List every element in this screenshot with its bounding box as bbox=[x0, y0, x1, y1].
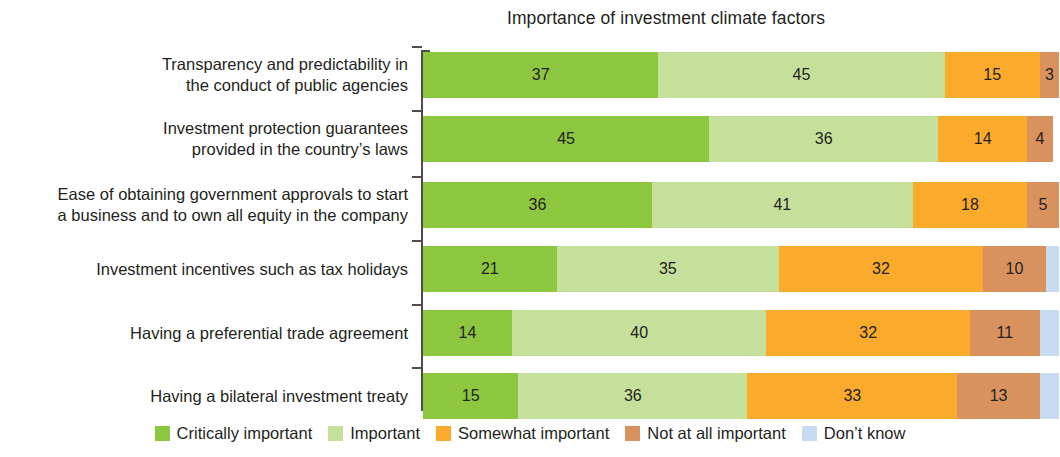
bar-segment[interactable] bbox=[1040, 373, 1059, 419]
bar-segment[interactable] bbox=[1046, 246, 1059, 292]
bar-segment[interactable]: 10 bbox=[983, 246, 1047, 292]
bar-segment[interactable]: 35 bbox=[557, 246, 780, 292]
chart-plot-area: Transparency and predictability in the c… bbox=[0, 44, 1060, 416]
bar-segment-value: 3 bbox=[1045, 67, 1054, 83]
category-label: Investment protection guarantees provide… bbox=[0, 118, 408, 160]
chart-row: Having a bilateral investment treaty1536… bbox=[0, 373, 1060, 419]
legend-label: Somewhat important bbox=[458, 424, 609, 443]
axis-tick bbox=[412, 176, 422, 178]
bar-segment-value: 11 bbox=[997, 325, 1014, 341]
bar-segment-value: 14 bbox=[459, 325, 477, 341]
bar-segment[interactable]: 32 bbox=[779, 246, 983, 292]
bar-segment-value: 32 bbox=[859, 325, 877, 341]
bar-segment[interactable]: 14 bbox=[938, 116, 1027, 162]
chart-row: Investment incentives such as tax holida… bbox=[0, 246, 1060, 292]
bar-segment-value: 10 bbox=[1006, 261, 1024, 277]
bar-segment[interactable]: 45 bbox=[658, 52, 944, 98]
axis-tick bbox=[412, 46, 422, 48]
legend-swatch-icon bbox=[436, 426, 451, 441]
bar-segment[interactable]: 3 bbox=[1040, 52, 1059, 98]
legend-swatch-icon bbox=[802, 426, 817, 441]
stacked-bar[interactable]: 15363313 bbox=[423, 373, 1059, 419]
bar-segment-value: 32 bbox=[872, 261, 890, 277]
stacked-bar[interactable]: 3745153 bbox=[423, 52, 1059, 98]
legend-label: Don’t know bbox=[824, 424, 906, 443]
category-label: Having a preferential trade agreement bbox=[0, 323, 408, 344]
legend-item[interactable]: Don’t know bbox=[802, 424, 906, 443]
axis-tick bbox=[412, 367, 422, 369]
bar-segment-value: 35 bbox=[659, 261, 677, 277]
legend-swatch-icon bbox=[328, 426, 343, 441]
chart-row: Ease of obtaining government approvals t… bbox=[0, 182, 1060, 228]
stacked-bar[interactable]: 21353210 bbox=[423, 246, 1059, 292]
chart-title-text: Importance of investment climate factors bbox=[507, 8, 825, 29]
bar-segment-value: 41 bbox=[773, 197, 791, 213]
bar-segment-value: 4 bbox=[1035, 131, 1044, 147]
legend-swatch-icon bbox=[625, 426, 640, 441]
axis-tick bbox=[412, 304, 422, 306]
legend-item[interactable]: Important bbox=[328, 424, 420, 443]
chart-row: Investment protection guarantees provide… bbox=[0, 116, 1060, 162]
bar-segment[interactable]: 36 bbox=[423, 182, 652, 228]
bar-segment[interactable]: 36 bbox=[518, 373, 747, 419]
bar-segment[interactable]: 32 bbox=[766, 310, 970, 356]
bar-segment-value: 36 bbox=[815, 131, 833, 147]
category-label: Investment incentives such as tax holida… bbox=[0, 259, 408, 280]
bar-segment-value: 15 bbox=[462, 388, 480, 404]
bar-segment-value: 36 bbox=[624, 388, 642, 404]
category-label: Having a bilateral investment treaty bbox=[0, 386, 408, 407]
legend-item[interactable]: Not at all important bbox=[625, 424, 785, 443]
bar-segment[interactable]: 45 bbox=[423, 116, 709, 162]
chart-legend: Critically importantImportantSomewhat im… bbox=[0, 424, 1060, 443]
bar-segment[interactable]: 36 bbox=[709, 116, 938, 162]
legend-item[interactable]: Critically important bbox=[155, 424, 313, 443]
stacked-bar[interactable]: 14403211 bbox=[423, 310, 1059, 356]
axis-tick bbox=[412, 110, 422, 112]
legend-label: Not at all important bbox=[647, 424, 785, 443]
bar-segment-value: 45 bbox=[557, 131, 575, 147]
bar-segment-value: 5 bbox=[1039, 197, 1048, 213]
category-label: Transparency and predictability in the c… bbox=[0, 54, 408, 96]
bar-segment-value: 21 bbox=[481, 261, 499, 277]
bar-segment[interactable]: 40 bbox=[512, 310, 766, 356]
bar-segment[interactable] bbox=[1040, 310, 1059, 356]
bar-segment[interactable]: 11 bbox=[970, 310, 1040, 356]
bar-segment-value: 36 bbox=[529, 197, 547, 213]
bar-segment-value: 37 bbox=[532, 67, 550, 83]
stacked-bar[interactable]: 4536144 bbox=[423, 116, 1059, 162]
legend-label: Critically important bbox=[177, 424, 313, 443]
bar-segment[interactable]: 14 bbox=[423, 310, 512, 356]
axis-tick bbox=[412, 240, 422, 242]
bar-segment[interactable]: 4 bbox=[1027, 116, 1052, 162]
legend-label: Important bbox=[350, 424, 420, 443]
bar-segment[interactable]: 37 bbox=[423, 52, 658, 98]
bar-segment[interactable]: 15 bbox=[423, 373, 518, 419]
bar-segment[interactable]: 33 bbox=[747, 373, 957, 419]
bar-segment-value: 45 bbox=[793, 67, 811, 83]
bar-segment-value: 18 bbox=[961, 197, 979, 213]
bar-segment[interactable]: 15 bbox=[945, 52, 1040, 98]
bar-segment-value: 15 bbox=[983, 67, 1001, 83]
bar-segment-value: 14 bbox=[974, 131, 992, 147]
chart-title: Importance of investment climate factors bbox=[0, 8, 1060, 29]
bar-segment[interactable]: 21 bbox=[423, 246, 557, 292]
bar-segment-value: 40 bbox=[630, 325, 648, 341]
bar-segment[interactable]: 41 bbox=[652, 182, 913, 228]
stacked-bar[interactable]: 3641185 bbox=[423, 182, 1059, 228]
legend-item[interactable]: Somewhat important bbox=[436, 424, 609, 443]
category-axis-line bbox=[421, 50, 423, 411]
legend-swatch-icon bbox=[155, 426, 170, 441]
chart-row: Transparency and predictability in the c… bbox=[0, 52, 1060, 98]
category-label: Ease of obtaining government approvals t… bbox=[0, 184, 408, 226]
bar-segment[interactable]: 18 bbox=[913, 182, 1027, 228]
bar-segment[interactable]: 13 bbox=[957, 373, 1040, 419]
bar-segment[interactable]: 5 bbox=[1027, 182, 1059, 228]
bar-segment-value: 33 bbox=[843, 388, 861, 404]
bar-segment-value: 13 bbox=[990, 388, 1008, 404]
chart-row: Having a preferential trade agreement144… bbox=[0, 310, 1060, 356]
